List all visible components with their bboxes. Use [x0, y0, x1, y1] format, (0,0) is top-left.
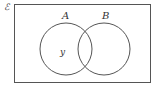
region-a-only-label: y: [59, 47, 66, 57]
set-b-label: B: [101, 10, 109, 21]
set-b-circle: [78, 23, 130, 75]
venn-diagram: ℰ A B y: [0, 0, 153, 88]
universal-set-symbol: ℰ: [4, 2, 11, 12]
universal-set-rectangle: [15, 5, 151, 83]
set-a-label: A: [61, 10, 69, 21]
set-a-circle: [40, 23, 92, 75]
